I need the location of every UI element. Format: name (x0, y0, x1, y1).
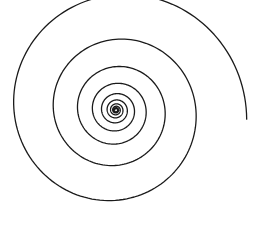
spiral-diagram (0, 0, 260, 238)
background (0, 0, 260, 238)
